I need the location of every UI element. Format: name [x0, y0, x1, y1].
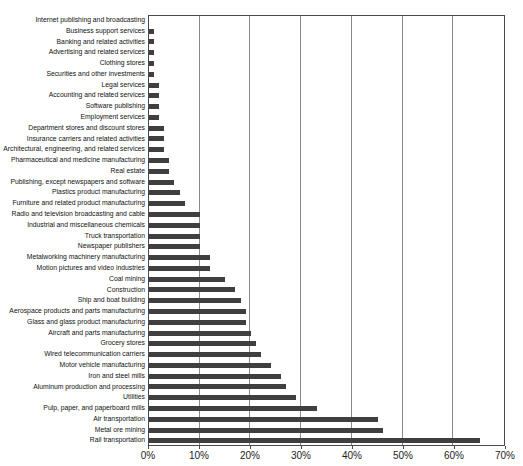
bar-track [149, 338, 505, 349]
bar-track [149, 58, 505, 69]
x-tick [199, 446, 200, 449]
bar-row: Air transportation [0, 414, 506, 425]
bar [149, 234, 200, 239]
bar-chart: Internet publishing and broadcastingBusi… [0, 0, 523, 466]
bar-track [149, 26, 505, 37]
category-label: Construction [0, 287, 149, 294]
bar [149, 384, 286, 389]
bar-row: Motor vehicle manufacturing [0, 360, 506, 371]
bar-track [149, 69, 505, 80]
bar-row: Iron and steel mills [0, 371, 506, 382]
category-label: Aerospace products and parts manufacturi… [0, 308, 149, 315]
bar-row: Metal ore mining [0, 425, 506, 436]
x-tick-label: 0% [141, 450, 155, 461]
category-label: Architectural, engineering, and related … [0, 146, 149, 153]
bar-track [149, 317, 505, 328]
bar [149, 29, 154, 34]
category-label: Utilities [0, 394, 149, 401]
bar-track [149, 177, 505, 188]
category-label: Rail transportation [0, 437, 149, 444]
bar [149, 201, 185, 206]
bar-row: Department stores and discount stores [0, 123, 506, 134]
category-label: Plastics product manufacturing [0, 189, 149, 196]
bar-row: Glass and glass product manufacturing [0, 317, 506, 328]
bar-track [149, 155, 505, 166]
category-label: Software publishing [0, 103, 149, 110]
category-label: Real estate [0, 168, 149, 175]
category-label: Internet publishing and broadcasting [0, 17, 149, 24]
category-label: Securities and other investments [0, 71, 149, 78]
bar-track [149, 15, 505, 26]
bar-row: Securities and other investments [0, 69, 506, 80]
bar-row: Pulp, paper, and paperboard mills [0, 403, 506, 414]
bar-row: Banking and related activities [0, 37, 506, 48]
bar-row: Employment services [0, 112, 506, 123]
category-label: Aircraft and parts manufacturing [0, 330, 149, 337]
bar [149, 352, 261, 357]
category-label: Motion pictures and video industries [0, 265, 149, 272]
x-tick [505, 446, 506, 449]
bar-track [149, 328, 505, 339]
bar [149, 223, 200, 228]
bar-row: Publishing, except newspapers and softwa… [0, 177, 506, 188]
bar-row: Advertising and related services [0, 47, 506, 58]
bar [149, 83, 159, 88]
x-tick-label: 60% [444, 450, 464, 461]
bar-row: Legal services [0, 80, 506, 91]
bar [149, 298, 241, 303]
bar-track [149, 295, 505, 306]
bar-row: Motion pictures and video industries [0, 263, 506, 274]
bar-row: Aerospace products and parts manufacturi… [0, 306, 506, 317]
bar-track [149, 134, 505, 145]
bar [149, 158, 169, 163]
category-label: Metal ore mining [0, 427, 149, 434]
bar-row: Construction [0, 285, 506, 296]
bar-row: Utilities [0, 392, 506, 403]
bar [149, 126, 164, 131]
x-tick-label: 20% [240, 450, 260, 461]
bar-track [149, 188, 505, 199]
bar [149, 72, 154, 77]
category-label: Legal services [0, 82, 149, 89]
bar-track [149, 274, 505, 285]
bar-track [149, 252, 505, 263]
category-label: Ship and boat building [0, 297, 149, 304]
bar [149, 277, 225, 282]
category-label: Department stores and discount stores [0, 125, 149, 132]
bar [149, 39, 154, 44]
bar [149, 255, 210, 260]
bar-row: Internet publishing and broadcasting [0, 15, 506, 26]
bar-row: Radio and television broadcasting and ca… [0, 209, 506, 220]
category-label: Clothing stores [0, 60, 149, 67]
bar [149, 180, 174, 185]
bar [149, 341, 256, 346]
category-label: Grocery stores [0, 340, 149, 347]
bar-row: Plastics product manufacturing [0, 188, 506, 199]
category-label: Air transportation [0, 416, 149, 423]
category-label: Pharmaceutical and medicine manufacturin… [0, 157, 149, 164]
bar [149, 244, 200, 249]
bar-track [149, 37, 505, 48]
category-label: Furniture and related product manufactur… [0, 200, 149, 207]
x-tick-label: 30% [291, 450, 311, 461]
bar-track [149, 220, 505, 231]
category-label: Glass and glass product manufacturing [0, 319, 149, 326]
bar-row: Wired telecommunication carriers [0, 349, 506, 360]
bar-track [149, 360, 505, 371]
category-label: Publishing, except newspapers and softwa… [0, 179, 149, 186]
bar [149, 136, 164, 141]
bar-track [149, 425, 505, 436]
x-tick-label: 10% [189, 450, 209, 461]
category-label: Radio and television broadcasting and ca… [0, 211, 149, 218]
category-label: Motor vehicle manufacturing [0, 362, 149, 369]
category-label: Advertising and related services [0, 49, 149, 56]
x-tick [148, 446, 149, 449]
category-label: Employment services [0, 114, 149, 121]
category-label: Wired telecommunication carriers [0, 351, 149, 358]
bar-row: Truck transportation [0, 231, 506, 242]
category-label: Newspaper publishers [0, 243, 149, 250]
bar-row: Rail transportation [0, 435, 506, 446]
bar-track [149, 198, 505, 209]
category-label: Metalworking machinery manufacturing [0, 254, 149, 261]
x-tick [454, 446, 455, 449]
